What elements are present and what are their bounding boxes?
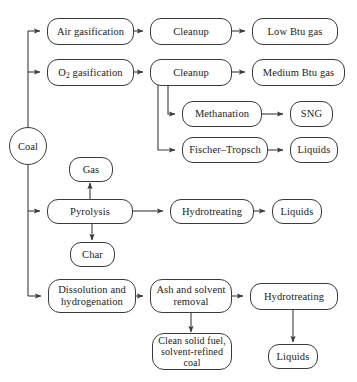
node-cleanup-2-label: Cleanup bbox=[173, 67, 209, 79]
node-cleanup-2[interactable]: Cleanup bbox=[150, 59, 232, 86]
node-liquids-pyrolysis[interactable]: Liquids bbox=[272, 199, 322, 224]
node-methanation-label: Methanation bbox=[195, 108, 249, 120]
node-cleanup-1[interactable]: Cleanup bbox=[150, 18, 232, 45]
node-low-btu-gas[interactable]: Low Btu gas bbox=[252, 18, 338, 45]
coal-conversion-flowchart: Coal Air gasification Cleanup Low Btu ga… bbox=[0, 0, 357, 382]
o2-subscript: 2 bbox=[66, 71, 70, 80]
edge-cleanup-to-fischer-tropsch bbox=[158, 85, 175, 150]
node-coal[interactable]: Coal bbox=[9, 127, 47, 165]
node-fischer-tropsch-label: Fischer–Tropsch bbox=[189, 144, 261, 156]
node-ash-solvent-removal[interactable]: Ash and solvent removal bbox=[150, 279, 232, 313]
node-liquids-fischer-tropsch[interactable]: Liquids bbox=[290, 137, 338, 163]
node-cleanup-1-label: Cleanup bbox=[173, 26, 209, 38]
node-clean-solid-fuel[interactable]: Clean solid fuel, solvent-refined coal bbox=[152, 333, 232, 370]
node-pyrolysis-label: Pyrolysis bbox=[70, 206, 110, 218]
node-hydrotreating-pyrolysis[interactable]: Hydrotreating bbox=[170, 199, 254, 224]
node-clean-solid-fuel-label: Clean solid fuel, solvent-refined coal bbox=[156, 335, 228, 369]
node-medium-btu-gas-label: Medium Btu gas bbox=[263, 67, 334, 79]
node-o2-gasification-label: O2 gasification bbox=[58, 67, 122, 79]
o2-symbol: O bbox=[58, 67, 66, 78]
node-air-gasification[interactable]: Air gasification bbox=[47, 18, 134, 45]
node-ash-removal-label: Ash and solvent removal bbox=[154, 284, 228, 308]
flowchart-connector-layer bbox=[0, 0, 357, 382]
node-air-gasification-label: Air gasification bbox=[57, 26, 124, 38]
node-char[interactable]: Char bbox=[70, 242, 115, 267]
node-sng[interactable]: SNG bbox=[290, 101, 333, 127]
node-liquids-ft-label: Liquids bbox=[298, 144, 331, 156]
node-fischer-tropsch[interactable]: Fischer–Tropsch bbox=[182, 137, 268, 163]
node-methanation[interactable]: Methanation bbox=[182, 101, 262, 127]
node-hydrotreating-liquefaction[interactable]: Hydrotreating bbox=[250, 283, 338, 310]
node-dissolution-hydrogenation[interactable]: Dissolution and hydrogenation bbox=[48, 279, 136, 313]
node-gas-label: Gas bbox=[83, 164, 100, 176]
node-liquids-bottom-label: Liquids bbox=[277, 351, 310, 363]
node-hydrotreating-liq-label: Hydrotreating bbox=[264, 291, 324, 303]
node-sng-label: SNG bbox=[301, 108, 322, 120]
node-liquids-pyro-label: Liquids bbox=[281, 206, 314, 218]
node-pyrolysis[interactable]: Pyrolysis bbox=[47, 199, 133, 224]
edge-cleanup-to-methanation bbox=[168, 85, 175, 114]
node-hydrotreating-pyro-label: Hydrotreating bbox=[182, 206, 242, 218]
o2-suffix: gasification bbox=[70, 67, 123, 78]
node-o2-gasification[interactable]: O2 gasification bbox=[47, 59, 134, 86]
node-liquids-bottom[interactable]: Liquids bbox=[268, 344, 318, 369]
node-char-label: Char bbox=[82, 249, 103, 261]
node-gas[interactable]: Gas bbox=[69, 157, 113, 182]
node-coal-label: Coal bbox=[18, 141, 38, 152]
node-low-btu-gas-label: Low Btu gas bbox=[268, 26, 323, 38]
node-dissolution-label: Dissolution and hydrogenation bbox=[52, 284, 132, 308]
node-medium-btu-gas[interactable]: Medium Btu gas bbox=[252, 59, 345, 86]
